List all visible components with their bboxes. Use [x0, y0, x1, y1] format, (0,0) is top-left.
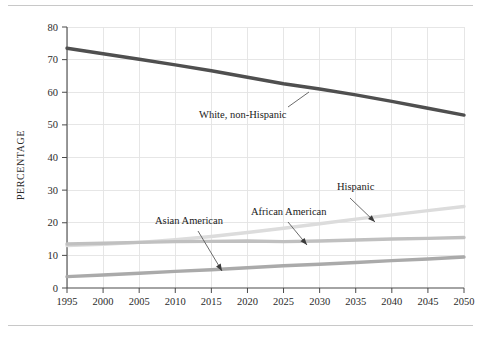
- y-tick-label: 10: [48, 250, 59, 261]
- x-tick-label: 2015: [201, 296, 222, 307]
- x-tick-label: 2010: [165, 296, 186, 307]
- x-tick-label: 2035: [345, 296, 366, 307]
- x-tick-label: 2040: [381, 296, 402, 307]
- annotation-label-hispanic: Hispanic: [337, 181, 375, 192]
- x-tick-label: 2020: [237, 296, 258, 307]
- x-tick-label: 1995: [57, 296, 78, 307]
- series-annotations: White, non-HispanicAsian AmericanAfrican…: [155, 92, 375, 271]
- y-tick-label: 70: [48, 54, 59, 65]
- y-tick-label: 20: [48, 217, 59, 228]
- x-tick-label: 2025: [273, 296, 294, 307]
- y-tick-label: 50: [48, 119, 59, 130]
- y-axis-ticks: 01020304050607080: [48, 22, 68, 294]
- x-axis: 1995200020052010201520202025203020352040…: [57, 288, 475, 307]
- chart-figure: 01020304050607080 1995200020052010201520…: [0, 0, 481, 338]
- horizontal-gridlines: [67, 27, 464, 255]
- y-tick-label: 80: [48, 22, 59, 33]
- x-axis-ticks: 1995200020052010201520202025203020352040…: [57, 288, 475, 307]
- x-tick-label: 2045: [417, 296, 438, 307]
- annotation-leader-white-non-hispanic: [288, 92, 309, 107]
- x-tick-label: 2030: [309, 296, 330, 307]
- y-tick-label: 0: [53, 283, 58, 294]
- y-tick-label: 60: [48, 87, 59, 98]
- x-tick-label: 2050: [454, 296, 475, 307]
- series-line-white-non-hispanic: [67, 48, 464, 115]
- annotation-label-african-american: African American: [251, 206, 327, 217]
- x-tick-label: 2000: [93, 296, 114, 307]
- line-chart: 01020304050607080 1995200020052010201520…: [0, 0, 481, 338]
- data-series-group: [67, 48, 464, 276]
- annotation-label-asian-american: Asian American: [155, 215, 224, 226]
- series-line-asian-american: [67, 257, 464, 277]
- y-tick-label: 30: [48, 185, 59, 196]
- y-axis-title: PERCENTAGE: [15, 130, 26, 200]
- y-tick-label: 40: [48, 152, 59, 163]
- annotation-label-white-non-hispanic: White, non-Hispanic: [199, 109, 287, 120]
- series-line-african-american: [67, 237, 464, 244]
- y-axis: 01020304050607080: [48, 22, 68, 294]
- x-tick-label: 2005: [129, 296, 150, 307]
